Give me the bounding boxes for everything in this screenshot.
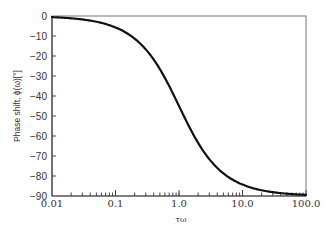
x-tick-label: 1.0: [171, 198, 187, 209]
x-tick-label: 10.0: [231, 198, 253, 209]
y-tick-label: −50: [30, 111, 47, 122]
y-tick-label: 0: [41, 11, 47, 22]
y-tick-label: −80: [30, 171, 47, 182]
y-tick-label: −70: [30, 151, 47, 162]
y-tick-label: −20: [30, 51, 47, 62]
x-tick-label: 0.1: [108, 198, 124, 209]
x-tick-label: 0.01: [41, 198, 63, 209]
y-tick-label: −60: [30, 131, 47, 142]
x-tick-label: 100.0: [292, 198, 321, 209]
x-axis-title: τω: [176, 215, 187, 224]
phase-curve: [52, 17, 306, 195]
y-tick-label: −10: [30, 31, 47, 42]
y-tick-label: −40: [30, 91, 47, 102]
phase-shift-chart: 0−10−20−30−40−50−60−70−80−90 0.010.11.01…: [0, 0, 326, 231]
y-axis-title: Phase shift, ϕ(ω)[°]: [12, 70, 22, 142]
y-tick-label: −30: [30, 71, 47, 82]
